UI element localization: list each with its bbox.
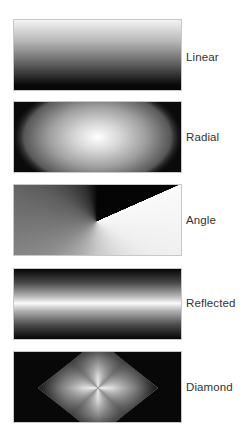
radial-gradient-swatch xyxy=(13,101,182,173)
radial-vignette xyxy=(14,102,181,172)
angle-gradient-swatch xyxy=(13,184,182,256)
linear-gradient-label: Linear xyxy=(186,50,219,64)
radial-gradient-label: Radial xyxy=(186,130,219,144)
diamond-gradient-label: Diamond xyxy=(186,380,233,394)
reflected-gradient-swatch xyxy=(13,268,182,340)
diamond-gradient-swatch xyxy=(13,351,182,423)
diamond-fade xyxy=(38,351,158,423)
reflected-gradient-label: Reflected xyxy=(186,296,235,310)
angle-gradient-label: Angle xyxy=(186,213,216,227)
linear-gradient-swatch xyxy=(13,19,182,91)
